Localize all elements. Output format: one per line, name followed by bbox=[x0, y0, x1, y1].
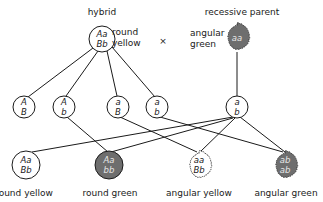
offspring-row: Aa Bb round yellow Aa bb round green aa … bbox=[0, 151, 318, 198]
offspring-genotype-line2: ab bbox=[280, 165, 291, 175]
offspring-genotype-line2: bb bbox=[104, 165, 115, 175]
offspring-round-yellow: Aa Bb round yellow bbox=[0, 151, 53, 198]
offspring-genotype-line1: Aa bbox=[19, 155, 31, 165]
line-recessive-gamete-to-offspring-4 bbox=[240, 117, 285, 152]
hybrid-genotype-line1: Aa bbox=[95, 29, 107, 39]
recessive-phenotype-line2: green bbox=[190, 39, 216, 49]
gamete-allele-2: b bbox=[234, 107, 239, 117]
offspring-genotype-line2: Bb bbox=[193, 165, 204, 175]
line-gamete-Ab-to-offspring bbox=[67, 117, 108, 152]
line-gamete-ab-to-offspring bbox=[160, 117, 283, 152]
hybrid-phenotype-line2: yellow bbox=[112, 38, 141, 48]
recessive-parent: recessive parent angular green aa bbox=[190, 7, 280, 49]
line-recessive-gamete-to-offspring-3 bbox=[200, 118, 235, 152]
offspring-phenotype-label: angular yellow bbox=[166, 188, 232, 198]
gamete-Ab: A b bbox=[53, 96, 75, 118]
recessive-phenotype-line1: angular bbox=[190, 28, 225, 38]
gamete-ab: a b bbox=[146, 96, 168, 118]
gamete-allele-1: A bbox=[20, 97, 27, 107]
gamete-allele-1: a bbox=[234, 97, 239, 107]
gamete-allele-1: a bbox=[115, 97, 120, 107]
offspring-angular-green: ab ab angular green bbox=[254, 151, 317, 198]
recessive-title: recessive parent bbox=[205, 7, 280, 17]
gamete-aB: a B bbox=[107, 96, 129, 118]
offspring-genotype-line1: ab bbox=[280, 155, 291, 165]
offspring-genotype-line1: aa bbox=[194, 155, 204, 165]
dihybrid-cross-diagram: hybrid Aa Bb round yellow × recessive pa… bbox=[0, 0, 323, 202]
gamete-recessive-ab: a b bbox=[226, 96, 248, 118]
line-hybrid-to-gamete-aB bbox=[107, 51, 117, 96]
offspring-round-green: Aa bb round green bbox=[83, 151, 138, 198]
gamete-allele-2: b bbox=[154, 107, 159, 117]
gamete-allele-2: b bbox=[61, 107, 66, 117]
gamete-allele-1: A bbox=[60, 97, 67, 107]
offspring-genotype-line2: Bb bbox=[20, 165, 31, 175]
offspring-genotype-line1: Aa bbox=[102, 155, 114, 165]
offspring-phenotype-label: angular green bbox=[254, 188, 317, 198]
offspring-phenotype-label: round green bbox=[83, 188, 138, 198]
gamete-allele-2: B bbox=[21, 107, 27, 117]
hybrid-title: hybrid bbox=[88, 7, 117, 17]
cross-symbol: × bbox=[159, 36, 167, 46]
hybrid-genotype-line2: Bb bbox=[96, 39, 107, 49]
gamete-allele-2: B bbox=[115, 107, 121, 117]
gamete-allele-1: a bbox=[154, 97, 159, 107]
offspring-phenotype-label: round yellow bbox=[0, 188, 53, 198]
line-hybrid-to-gamete-ab bbox=[112, 47, 155, 97]
gametes-row: A B A b a B a b a b bbox=[13, 96, 248, 118]
gamete-AB: A B bbox=[13, 96, 35, 118]
hybrid-parent: hybrid Aa Bb round yellow bbox=[88, 7, 141, 52]
hybrid-phenotype-line1: round bbox=[112, 27, 138, 37]
line-hybrid-to-gamete-Ab bbox=[66, 51, 98, 96]
offspring-angular-yellow: aa Bb angular yellow bbox=[166, 151, 232, 198]
recessive-genotype: aa bbox=[232, 33, 242, 43]
